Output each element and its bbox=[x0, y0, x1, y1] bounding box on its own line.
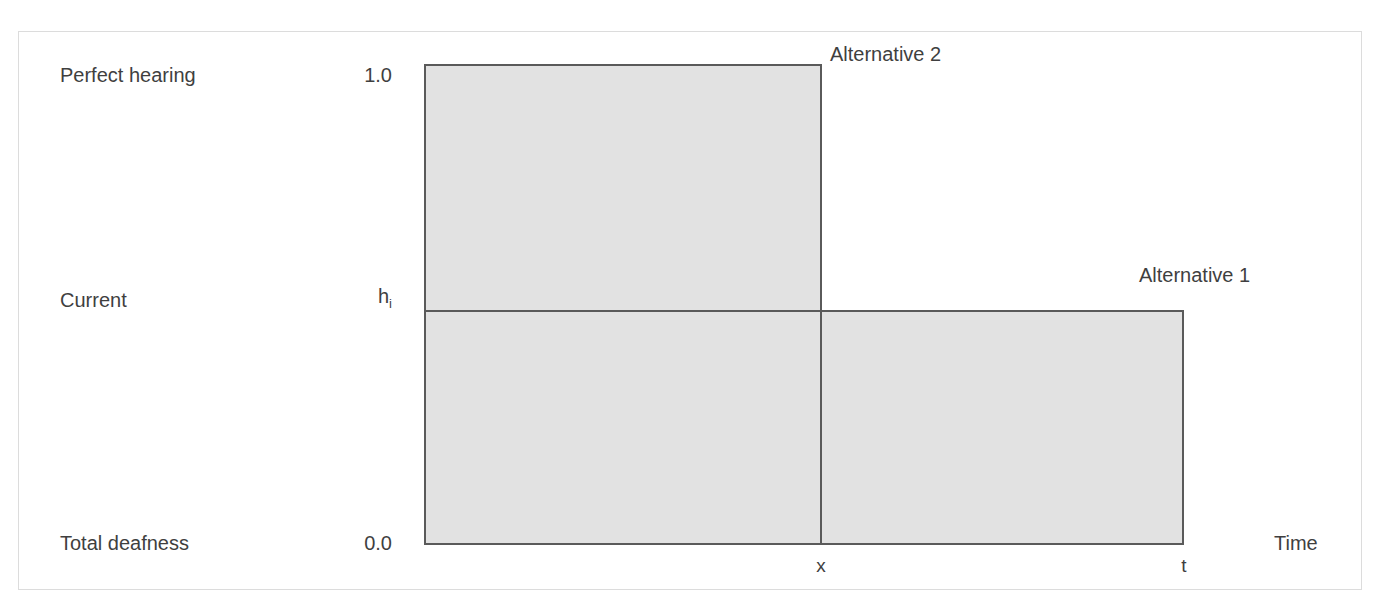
series-label-alternative-2: Alternative 2 bbox=[830, 44, 941, 64]
x-axis-tick-t: t bbox=[1164, 556, 1204, 575]
y-axis-value-hi-subscript: i bbox=[389, 296, 392, 311]
region-baseline-left bbox=[424, 310, 822, 545]
y-axis-label-current: Current bbox=[60, 290, 127, 310]
y-axis-value-top: 1.0 bbox=[272, 65, 392, 85]
series-label-alternative-1: Alternative 1 bbox=[1139, 265, 1250, 285]
x-axis-tick-x: x bbox=[801, 556, 841, 575]
x-axis-title: Time bbox=[1274, 533, 1318, 553]
region-alternative-2 bbox=[424, 64, 822, 312]
y-axis-value-hi: hi bbox=[272, 286, 392, 306]
y-axis-label-perfect-hearing: Perfect hearing bbox=[60, 65, 196, 85]
y-axis-value-bottom: 0.0 bbox=[272, 533, 392, 553]
region-alternative-1 bbox=[820, 310, 1184, 545]
y-axis-value-hi-base: h bbox=[378, 285, 389, 307]
y-axis-label-total-deafness: Total deafness bbox=[60, 533, 189, 553]
figure-root: Perfect hearing Current Total deafness 1… bbox=[0, 0, 1381, 613]
